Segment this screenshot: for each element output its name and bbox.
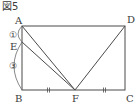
point-label-c: C xyxy=(126,94,134,104)
ratio-label-ae: ① xyxy=(9,30,17,40)
point-label-d: D xyxy=(127,15,135,25)
segment-df xyxy=(75,26,125,90)
point-label-f: F xyxy=(72,94,79,104)
segment-ef xyxy=(22,42,75,90)
rectangle-abcd xyxy=(22,26,125,90)
point-label-e: E xyxy=(10,42,17,52)
segment-af xyxy=(22,26,75,90)
ratio-label-eb: ③ xyxy=(9,61,17,71)
point-label-b: B xyxy=(15,94,22,104)
point-label-a: A xyxy=(15,16,22,26)
arc-ae xyxy=(18,26,22,42)
